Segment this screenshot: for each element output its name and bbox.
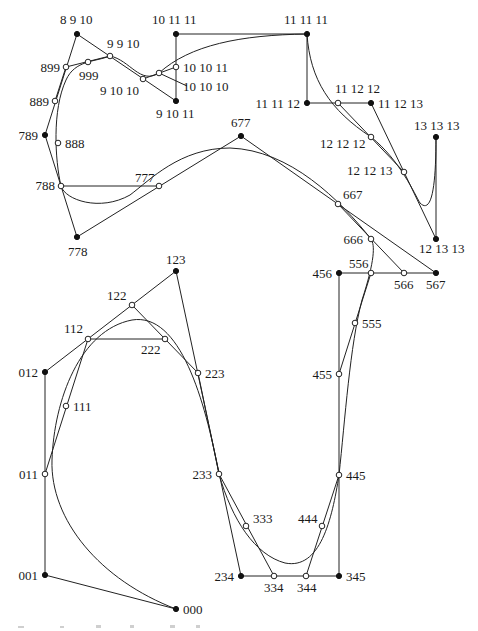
- point-label: 667: [343, 187, 363, 202]
- subdivision-point-circle: [216, 471, 222, 477]
- point-label: 10 10 10: [183, 79, 229, 94]
- subdivision-point-circle: [58, 183, 64, 189]
- subdivision-point-circle: [156, 183, 162, 189]
- subdivision-point-circle: [271, 573, 277, 579]
- point-label: 344: [297, 580, 317, 595]
- point-label: 333: [253, 511, 273, 526]
- control-point-dot: [304, 100, 309, 105]
- control-point-dot: [173, 268, 178, 273]
- subdivision-point-circle: [140, 76, 146, 82]
- point-label: 445: [346, 468, 366, 483]
- subdivision-point-circle: [107, 53, 113, 59]
- point-label: 788: [36, 178, 56, 193]
- point-label: 444: [298, 511, 318, 526]
- point-label: 12 13 13: [419, 241, 465, 256]
- point-label: 223: [205, 366, 225, 381]
- control-point-dot: [433, 270, 438, 275]
- point-label: 122: [107, 288, 127, 303]
- point-label: 889: [30, 94, 50, 109]
- subdivision-point-circle: [319, 523, 325, 529]
- subdivision-point-circle: [195, 370, 201, 376]
- control-point-dot: [42, 132, 47, 137]
- control-point-dot: [336, 270, 341, 275]
- control-point-dot: [74, 31, 79, 36]
- point-label: 789: [19, 128, 39, 143]
- point-label: 11 12 12: [335, 81, 380, 96]
- subdivision-point-circle: [243, 523, 249, 529]
- subdivision-point-circle: [63, 64, 69, 70]
- subdivision-point-circle: [336, 472, 342, 478]
- control-point-dot: [42, 572, 47, 577]
- subdivision-point-circle: [55, 140, 61, 146]
- curve-2: [219, 239, 373, 564]
- point-label: 566: [394, 277, 414, 292]
- subdivision-point-circle: [368, 236, 374, 242]
- point-label: 456: [313, 266, 333, 281]
- point-label: 011: [19, 467, 38, 482]
- point-label: 677: [231, 115, 251, 130]
- point-label: 001: [19, 568, 39, 583]
- control-point-dot: [173, 31, 178, 36]
- point-label: 9 9 10: [107, 36, 140, 51]
- control-point-dot: [304, 31, 309, 36]
- curve-3: [56, 80, 371, 239]
- subdivision-point-circle: [85, 59, 91, 65]
- point-label: 556: [349, 256, 369, 271]
- point-label: 000: [183, 602, 203, 617]
- point-label: 12 12 12: [320, 136, 366, 151]
- point-label: 012: [19, 365, 39, 380]
- point-label: 111: [73, 399, 92, 414]
- control-point-dot: [433, 134, 438, 139]
- subdivision-point-circle: [336, 371, 342, 377]
- curve-1: [52, 319, 219, 609]
- point-label: 13 13 13: [414, 118, 460, 133]
- control-point-dot: [74, 234, 79, 239]
- point-label: 12 12 13: [347, 163, 393, 178]
- subdivision-point-circle: [401, 270, 407, 276]
- point-label: 112: [64, 321, 83, 336]
- subdivision-point-circle: [335, 201, 341, 207]
- point-label: 555: [362, 316, 382, 331]
- subdivision-point-circle: [85, 336, 91, 342]
- bspline-blossom-diagram: 8 9 1010 11 1111 11 119 9 1089999910 10 …: [0, 0, 478, 631]
- point-label: 10 11 11: [152, 12, 197, 27]
- control-point-dot: [336, 573, 341, 578]
- point-label: 455: [313, 367, 333, 382]
- subdivision-point-circle: [335, 100, 341, 106]
- point-label: 9 10 11: [156, 106, 195, 121]
- point-label: 899: [41, 60, 61, 75]
- point-label: 8 9 10: [60, 12, 93, 27]
- control-point-dot: [238, 133, 243, 138]
- subdivision-point-circle: [63, 403, 69, 409]
- point-label: 10 10 11: [183, 60, 228, 75]
- control-point-dot: [368, 100, 373, 105]
- point-label: 999: [79, 68, 99, 83]
- control-point-dot: [238, 573, 243, 578]
- point-label: 777: [135, 170, 155, 185]
- subdivision-point-circle: [401, 169, 407, 175]
- point-label: 11 11 11: [284, 12, 328, 27]
- control-point-dot: [42, 369, 47, 374]
- point-label: 11 11 12: [255, 96, 300, 111]
- control-point-dot: [173, 606, 178, 611]
- point-label: 9 10 10: [100, 83, 139, 98]
- subdivision-point-circle: [52, 98, 58, 104]
- subdivision-point-circle: [162, 336, 168, 342]
- subdivision-point-circle: [368, 134, 374, 140]
- subdivision-point-circle: [173, 64, 179, 70]
- subdivision-point-circle: [42, 471, 48, 477]
- subdivision-point-circle: [368, 270, 374, 276]
- cut-off-caption-fragments: [18, 625, 200, 628]
- subdivision-point-circle: [352, 320, 358, 326]
- point-label: 11 12 13: [378, 96, 423, 111]
- point-label: 567: [426, 277, 446, 292]
- point-label: 222: [141, 342, 161, 357]
- subdivision-point-circle: [156, 70, 162, 76]
- point-label: 233: [193, 467, 213, 482]
- point-label: 123: [166, 252, 186, 267]
- subdivision-point-circle: [129, 302, 135, 308]
- subdivision-point-circle: [303, 573, 309, 579]
- point-label: 345: [346, 569, 366, 584]
- point-label: 334: [264, 580, 284, 595]
- point-label: 666: [344, 232, 364, 247]
